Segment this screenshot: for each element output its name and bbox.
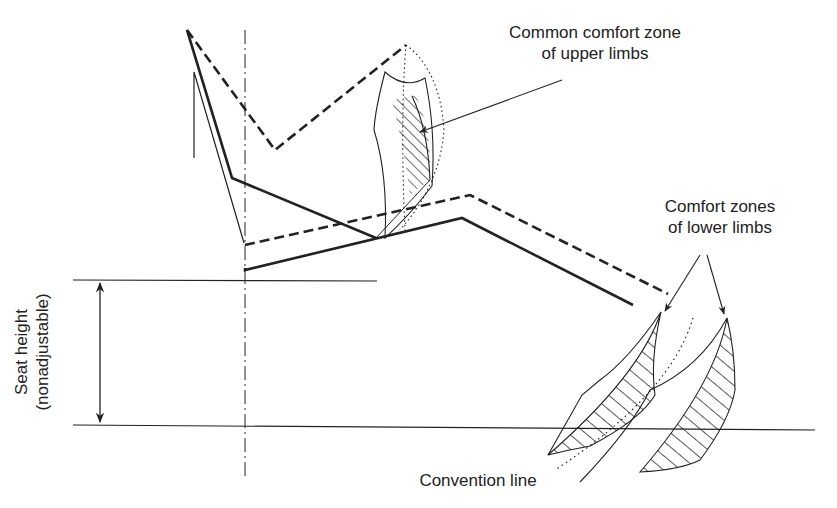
seat-top-line — [73, 280, 377, 281]
convention-line-label: Convention line — [398, 470, 558, 491]
posture-solid-lower — [245, 218, 633, 305]
seat-height-label-line1: Seat height — [11, 277, 32, 427]
upper-limb-zone-hatch — [392, 96, 430, 195]
lower-zone-label: Comfort zones of lower limbs — [640, 196, 800, 238]
upper-zone-label-line2: of upper limbs — [480, 43, 710, 64]
posture-solid-upper — [187, 30, 376, 238]
lower-zone-label-line2: of lower limbs — [640, 217, 800, 238]
upper-zone-label: Common comfort zone of upper limbs — [480, 22, 710, 64]
posture-diagram — [0, 0, 837, 508]
lower-limb-zone-1 — [548, 312, 661, 455]
seat-height-label: Seat height (nonadjustable) — [11, 277, 53, 427]
upper-zone-label-line1: Common comfort zone — [480, 22, 710, 43]
posture-dashed-arm — [187, 30, 406, 150]
lower-zone-leader-1 — [665, 255, 700, 311]
lower-zone-leader-2 — [707, 255, 724, 314]
seat-height-label-line2: (nonadjustable) — [32, 277, 53, 427]
lower-zone-label-line1: Comfort zones — [640, 196, 800, 217]
